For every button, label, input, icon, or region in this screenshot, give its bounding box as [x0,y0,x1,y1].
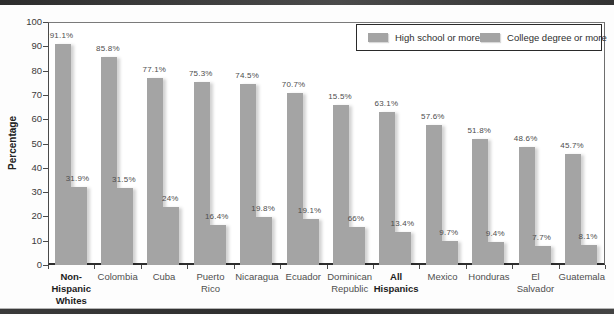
y-axis-tick [43,46,48,47]
y-axis-tick [43,192,48,193]
bar-high-school [101,57,117,265]
x-axis-tick [512,265,513,269]
x-axis-tick [605,265,606,269]
bar-value-label: 77.1% [142,65,166,74]
y-axis-tick [43,119,48,120]
x-axis-tick [94,265,95,269]
x-axis-tick [327,265,328,269]
bar-college-degree [303,219,319,265]
bar-high-school [379,112,395,265]
y-axis-tick-label: 60 [14,113,42,124]
bar-high-school [565,154,581,265]
bar-college-degree [535,246,551,265]
bar-value-label: 19.1% [298,206,322,215]
y-axis-tick [43,241,48,242]
bar-high-school [519,147,535,265]
bar-high-school [287,93,303,265]
plot-area: 91.1%85.8%77.1%75.3%74.5%70.7%15.5%63.1%… [48,22,605,265]
bar-value-label: 51.8% [467,126,491,135]
bar-value-label: 7.7% [532,233,551,242]
bar-value-label: 75.3% [189,69,213,78]
y-axis-tick [43,71,48,72]
bar-value-label: 57.6% [421,112,445,121]
bar-value-label: 16.4% [205,212,229,221]
y-axis-tick [43,168,48,169]
bar-value-label: 70.7% [282,80,306,89]
bar-high-school [55,44,71,265]
bar-college-degree [256,217,272,265]
bar-value-label: 74.5% [235,71,259,80]
bar-college-degree [349,227,365,265]
x-axis-tick [373,265,374,269]
bar-value-label: 9.4% [486,229,505,238]
y-axis-tick-label: 0 [14,259,42,270]
y-axis-tick-label: 50 [14,138,42,149]
bar-high-school [426,125,442,265]
y-axis-tick [43,95,48,96]
legend-label-high-school: High school or more [395,32,480,43]
bar-college-degree [581,245,597,265]
legend-label-college-degree: College degree or more [507,32,607,43]
bar-value-label: 63.1% [375,99,399,108]
x-axis-tick [559,265,560,269]
bar-value-label: 9.7% [439,228,458,237]
x-axis-tick [419,265,420,269]
x-axis-tick [466,265,467,269]
x-axis-tick [187,265,188,269]
bar-value-label: 13.4% [391,219,415,228]
bar-college-degree [395,232,411,265]
y-axis-tick-label: 40 [14,162,42,173]
legend-item-college-degree: College degree or more [480,32,607,43]
x-axis-category-label: Guatemala [549,271,614,283]
bar-high-school [333,105,349,265]
bar-college-degree [488,242,504,265]
bar-value-label: 91.1% [50,31,74,40]
bar-value-label: 45.7% [560,141,584,150]
bar-value-label: 15.5% [328,92,352,101]
bar-college-degree [117,188,133,265]
bar-high-school [147,78,163,265]
y-axis-tick-label: 80 [14,65,42,76]
high-school-swatch-icon [368,33,388,42]
y-axis-tick-label: 90 [14,40,42,51]
y-axis-tick-label: 70 [14,89,42,100]
bar-college-degree [442,241,458,265]
x-axis-tick [141,265,142,269]
legend: High school or more College degree or mo… [356,24,602,51]
bar-value-label: 31.5% [112,175,136,184]
y-axis-tick-label: 30 [14,186,42,197]
y-axis-tick [43,144,48,145]
legend-item-high-school: High school or more [368,32,480,43]
figure: Percentage 91.1%85.8%77.1%75.3%74.5%70.7… [0,0,614,316]
page-top-border [0,0,614,5]
bar-value-label: 24% [162,194,179,203]
y-axis-tick-label: 100 [14,16,42,27]
bar-value-label: 48.6% [514,134,538,143]
bar-value-label: 19.8% [251,204,275,213]
bar-value-label: 8.1% [579,232,598,241]
bar-value-label: 31.9% [66,174,90,183]
page-bottom-border [0,309,614,314]
y-axis-tick-label: 20 [14,210,42,221]
y-axis-tick [43,216,48,217]
y-axis-tick-label: 10 [14,235,42,246]
bar-high-school [240,84,256,265]
bar-college-degree [163,207,179,265]
bar-value-label: 66% [348,214,365,223]
college-degree-swatch-icon [480,33,500,42]
x-axis-tick [234,265,235,269]
bar-college-degree [71,187,87,265]
bar-high-school [194,82,210,265]
bar-college-degree [210,225,226,265]
x-axis-tick [280,265,281,269]
bar-high-school [472,139,488,265]
y-axis-tick [43,22,48,23]
x-axis-tick [48,265,49,269]
bar-value-label: 85.8% [96,44,120,53]
